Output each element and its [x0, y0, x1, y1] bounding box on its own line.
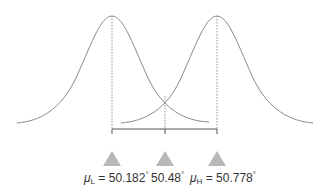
mu-h-label: μH = 50.778°: [189, 170, 256, 186]
mu-h-triangle-icon: [208, 151, 226, 166]
mu-l-label: μL = 50.182°: [83, 170, 149, 186]
diagram-canvas: μL = 50.182° 50.48° μH = 50.778°: [0, 0, 322, 186]
threshold-label: 50.48°: [151, 170, 184, 185]
threshold-triangle-icon: [156, 151, 174, 166]
low-distribution-curve: [17, 16, 209, 123]
distribution-diagram: μL = 50.182° 50.48° μH = 50.778°: [0, 0, 322, 186]
mu-l-triangle-icon: [103, 151, 121, 166]
